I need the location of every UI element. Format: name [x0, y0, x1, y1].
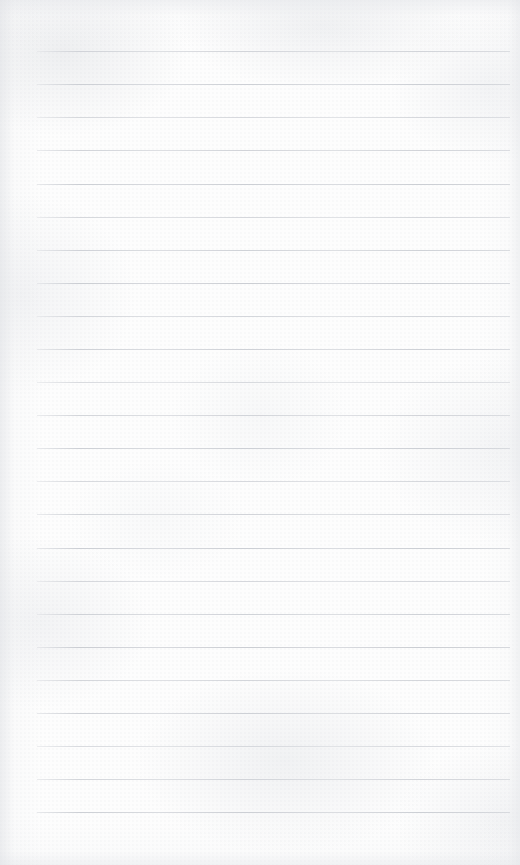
rule-line — [37, 548, 510, 549]
rule-line — [37, 514, 510, 515]
rule-line — [37, 779, 510, 780]
rule-line — [37, 382, 510, 383]
rule-line — [37, 812, 510, 813]
rule-line — [37, 117, 510, 118]
rule-line — [37, 415, 510, 416]
rule-line — [37, 217, 510, 218]
rule-line — [37, 283, 510, 284]
ruled-lines-group — [0, 0, 520, 865]
rule-line — [37, 150, 510, 151]
rule-line — [37, 448, 510, 449]
rule-line — [37, 713, 510, 714]
lined-paper-page — [0, 0, 520, 865]
rule-line — [37, 250, 510, 251]
rule-line — [37, 746, 510, 747]
rule-line — [37, 647, 510, 648]
rule-line — [37, 680, 510, 681]
rule-line — [37, 51, 510, 52]
rule-line — [37, 184, 510, 185]
rule-line — [37, 481, 510, 482]
rule-line — [37, 84, 510, 85]
rule-line — [37, 614, 510, 615]
rule-line — [37, 349, 510, 350]
rule-line — [37, 316, 510, 317]
rule-line — [37, 581, 510, 582]
